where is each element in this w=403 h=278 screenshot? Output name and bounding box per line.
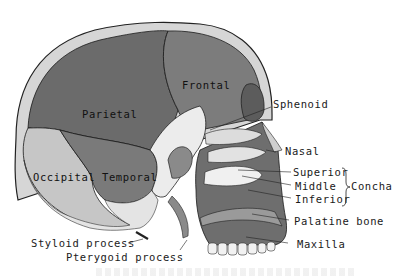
- label-concha: Concha: [351, 180, 393, 192]
- label-temporal: Temporal: [102, 171, 157, 183]
- label-maxilla: Maxilla: [297, 238, 345, 250]
- label-styloid-process: Styloid process: [31, 237, 135, 249]
- label-palatine-bone: Palatine bone: [294, 215, 384, 227]
- styloid-spine: [136, 232, 148, 239]
- figure-caption-faint: [96, 268, 356, 276]
- label-frontal: Frontal: [182, 79, 230, 91]
- label-sphenoid: Sphenoid: [273, 98, 328, 110]
- label-concha-middle: Middle: [295, 180, 337, 192]
- pterygoid-plate: [168, 196, 188, 238]
- label-concha-inferior: Inferior: [295, 193, 350, 205]
- label-parietal: Parietal: [82, 108, 137, 120]
- label-pterygoid-process: Pterygoid process: [66, 251, 184, 263]
- label-concha-superior: Superior: [293, 166, 348, 178]
- label-nasal: Nasal: [285, 145, 320, 157]
- label-occipital: Occipital: [33, 171, 95, 183]
